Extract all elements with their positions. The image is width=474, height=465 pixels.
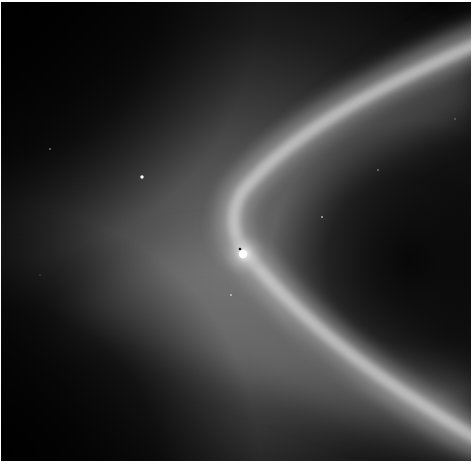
- moon: [239, 250, 247, 258]
- star: [230, 294, 232, 296]
- star: [49, 148, 51, 150]
- star: [454, 118, 455, 119]
- star: [377, 169, 379, 171]
- star: [321, 216, 323, 218]
- ring-scene: [1, 2, 471, 461]
- star: [140, 175, 143, 178]
- space-photo: [1, 2, 471, 461]
- moon-shadow-spot: [239, 248, 242, 251]
- star: [39, 274, 40, 275]
